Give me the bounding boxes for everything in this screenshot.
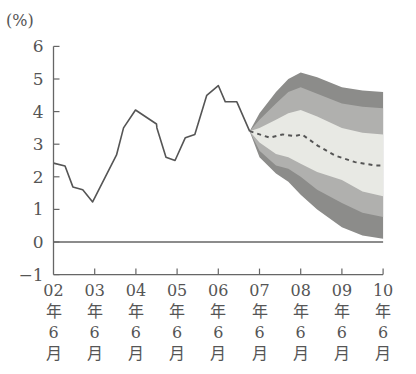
y-tick-label: 5	[33, 69, 44, 89]
y-tick-label: 2	[33, 167, 44, 187]
x-tick-label: 年	[293, 302, 309, 321]
x-tick-label: 月	[293, 344, 309, 363]
x-tick-label: 04	[126, 281, 146, 300]
x-ticks: 02年6月03年6月04年6月05年6月06年6月07年6月08年6月09年6月…	[43, 269, 393, 363]
x-tick-label: 月	[87, 344, 103, 363]
x-tick-label: 6	[90, 323, 100, 342]
x-tick-label: 年	[252, 302, 268, 321]
y-tick-label: 1	[33, 199, 44, 219]
x-tick-label: 年	[375, 302, 391, 321]
x-tick-label: 月	[375, 344, 391, 363]
y-tick-label: 3	[33, 134, 44, 154]
x-tick-label: 6	[213, 323, 223, 342]
x-tick-label: 6	[131, 323, 141, 342]
x-tick-label: 6	[337, 323, 347, 342]
y-tick-label: 4	[33, 102, 44, 122]
x-tick-label: 6	[172, 323, 182, 342]
x-tick-label: 05	[167, 281, 187, 300]
x-tick-label: 6	[254, 323, 264, 342]
x-tick-label: 03	[85, 281, 105, 300]
x-tick-label: 6	[296, 323, 306, 342]
x-tick-label: 年	[169, 302, 185, 321]
x-tick-label: 08	[291, 281, 311, 300]
x-tick-label: 月	[252, 344, 268, 363]
x-tick-label: 10	[373, 281, 393, 300]
x-tick-label: 09	[332, 281, 352, 300]
fan-chart-bands	[250, 72, 383, 238]
x-tick-label: 07	[249, 281, 269, 300]
x-tick-label: 年	[46, 302, 62, 321]
x-tick-label: 年	[87, 302, 103, 321]
x-tick-label: 02	[43, 281, 63, 300]
actual-line	[54, 86, 250, 202]
y-unit-label: (%)	[6, 11, 34, 30]
x-tick-label: 年	[128, 302, 144, 321]
x-tick-label: 月	[210, 344, 226, 363]
y-tick-label: 0	[33, 232, 44, 252]
x-tick-label: 年	[334, 302, 350, 321]
x-tick-label: 月	[46, 344, 62, 363]
x-tick-label: 年	[210, 302, 226, 321]
x-tick-label: 6	[48, 323, 58, 342]
y-tick-label: 6	[33, 36, 44, 56]
y-tick-label: −1	[18, 265, 43, 285]
x-tick-label: 6	[378, 323, 388, 342]
x-tick-label: 月	[334, 344, 350, 363]
x-tick-label: 月	[169, 344, 185, 363]
x-tick-label: 月	[128, 344, 144, 363]
x-tick-label: 06	[208, 281, 228, 300]
chart: (%) 6543210−1 02年6月03年6月04年6月05年6月06年6月0…	[0, 0, 416, 374]
